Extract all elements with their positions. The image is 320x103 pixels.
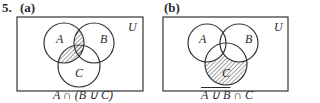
set-b-label: B	[245, 32, 252, 47]
caption-rest: ∩ C	[230, 88, 253, 102]
universe-label: U	[128, 20, 137, 35]
set-a-label: A	[199, 32, 206, 47]
caption-overlined-part: A ∪ B	[201, 88, 230, 102]
set-c-label: C	[222, 66, 230, 81]
panel-a-caption: A ∩ (B ∪ C)	[53, 88, 113, 103]
panel-b-caption: A ∪ B ∩ C	[201, 88, 253, 103]
set-b-label: B	[100, 32, 107, 47]
set-c-label: C	[75, 66, 83, 81]
universe-label: U	[274, 20, 283, 35]
set-a-label: A	[56, 32, 63, 47]
